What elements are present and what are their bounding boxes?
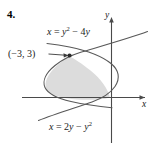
curve-label-bottom-text: x = 2y − y2 (49, 121, 92, 132)
intersection-point-label: (−3, 3) (8, 48, 35, 59)
curve-label-bottom: x = 2y − y2 (49, 121, 92, 132)
curve-label-top: x = y2 − 4y (47, 26, 90, 37)
curve-label-top-text: x = y2 − 4y (47, 26, 90, 37)
y-axis-label: y (105, 10, 109, 20)
x-axis-label: x (142, 99, 146, 109)
shaded-region (46, 56, 110, 100)
problem-number: 4. (7, 9, 15, 20)
y-axis-arrowhead (109, 17, 114, 23)
